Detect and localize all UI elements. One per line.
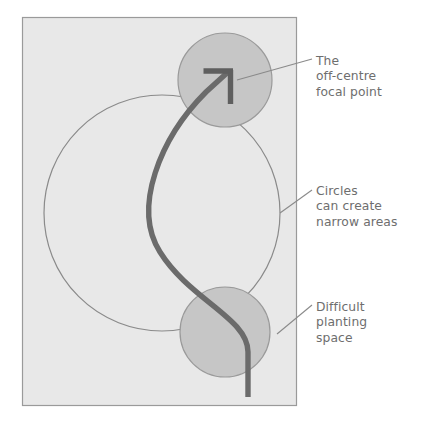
top-filled-circle: [178, 33, 272, 127]
callout-label-focal-point: The off-centre focal point: [316, 54, 382, 100]
callout-label-difficult-planting: Difficult planting space: [316, 300, 367, 346]
bottom-filled-circle: [180, 287, 270, 377]
diagram-canvas: The off-centre focal point Circles can c…: [0, 0, 432, 426]
callout-label-narrow-areas: Circles can create narrow areas: [316, 184, 397, 230]
